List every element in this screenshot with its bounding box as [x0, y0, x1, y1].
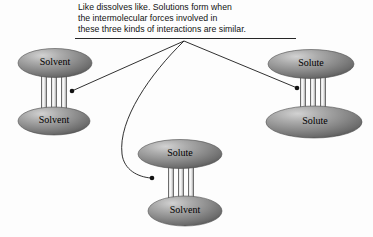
blob-solvent-top-left	[18, 49, 92, 78]
blob-solute-top-right	[268, 50, 354, 79]
diagram-artwork	[0, 0, 373, 237]
leader-dot-solute-solvent	[150, 176, 155, 181]
figure-canvas: Like dissolves like. Solutions form when…	[0, 0, 373, 237]
leader-dot-solvent-solvent	[70, 89, 75, 94]
blob-solute-top-center	[138, 140, 222, 169]
leader-dot-solute-solute	[295, 86, 300, 91]
interaction-solvent-solvent	[18, 49, 92, 136]
interaction-solute-solvent	[138, 140, 222, 227]
blob-solvent-bottom-left	[18, 107, 90, 135]
blob-solvent-bottom-center	[148, 196, 222, 226]
blob-solute-bottom-right	[266, 106, 362, 138]
interaction-solute-solute	[266, 50, 362, 139]
